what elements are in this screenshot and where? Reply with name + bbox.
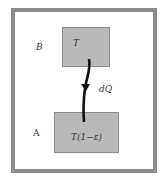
- heat-flow-arrow-icon: [0, 0, 168, 178]
